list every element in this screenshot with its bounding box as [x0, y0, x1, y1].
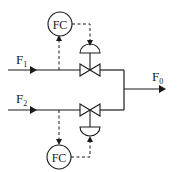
process-diagram: F1 FC F0 F2 FC: [0, 0, 178, 172]
actuator-icon: [80, 127, 100, 136]
controller-bottom-label: FC: [52, 151, 67, 165]
control-valve-bottom: [80, 104, 100, 136]
flow-arrow-icon: [159, 85, 166, 93]
signal-arrow-icon: [87, 136, 93, 142]
flow-controller-bottom: FC: [47, 145, 71, 169]
inlet-1-label: F1: [16, 52, 27, 69]
control-valve-top: [80, 44, 100, 76]
outlet-stream: [124, 85, 166, 93]
outlet-label: F0: [152, 69, 163, 86]
controller-top-label: FC: [53, 18, 68, 32]
flow-controller-top: FC: [48, 12, 72, 36]
flow-arrow-icon: [30, 106, 37, 114]
signal-arrow-icon: [56, 139, 62, 145]
inlet-2-label: F2: [16, 91, 27, 108]
flow-arrow-icon: [30, 66, 37, 74]
